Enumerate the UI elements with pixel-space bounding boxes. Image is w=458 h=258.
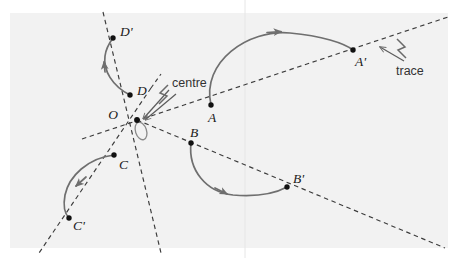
label-B: B [190, 125, 198, 140]
point-C[interactable] [111, 152, 116, 157]
label-C: C [119, 157, 129, 172]
point-D-prime[interactable] [110, 35, 115, 40]
label-A: A [207, 110, 217, 125]
figure-root: p p p pp [0, 0, 458, 258]
label-A-prime: A' [354, 54, 367, 69]
point-D[interactable] [127, 92, 132, 97]
rotation-diagram: O A A' B B' C C' D D' centre trace [0, 0, 458, 258]
label-B-prime: B' [293, 171, 305, 186]
label-D: D [136, 83, 147, 98]
point-B-prime[interactable] [284, 184, 289, 189]
arc-A-arrowhead [267, 32, 281, 33]
point-A[interactable] [208, 102, 213, 107]
arc-D-arrowhead [104, 62, 105, 72]
label-centre: centre [172, 76, 207, 90]
point-O[interactable] [134, 117, 140, 123]
label-D-prime: D' [119, 24, 134, 39]
point-B[interactable] [188, 140, 193, 145]
label-O: O [108, 107, 118, 122]
point-C-prime[interactable] [66, 215, 71, 220]
label-C-prime: C' [73, 218, 86, 233]
point-A-prime[interactable] [350, 47, 355, 52]
label-trace: trace [396, 64, 424, 78]
